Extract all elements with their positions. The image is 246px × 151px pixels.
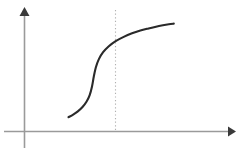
figure-background (0, 0, 246, 151)
sigmoid-figure (0, 0, 246, 151)
figure-canvas (0, 0, 246, 151)
